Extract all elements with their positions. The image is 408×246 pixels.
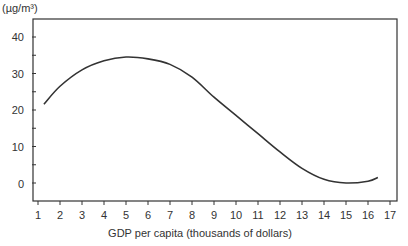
data-line: [44, 57, 378, 183]
chart: 010203040 1234567891011121314151617 (µg/…: [0, 0, 408, 246]
x-tick-label: 3: [79, 209, 85, 221]
x-tick-label: 7: [167, 209, 173, 221]
x-tick-label: 14: [318, 209, 330, 221]
x-tick-label: 17: [384, 209, 396, 221]
y-tick-label: 0: [18, 178, 24, 190]
y-tick-label: 20: [12, 104, 24, 116]
x-tick-label: 12: [274, 209, 286, 221]
y-tick-label: 30: [12, 68, 24, 80]
x-tick-label: 15: [340, 209, 352, 221]
y-axis-label: (µg/m³): [2, 2, 38, 14]
x-tick-label: 11: [252, 209, 263, 221]
y-axis-ticks: 010203040: [12, 31, 36, 190]
x-tick-label: 16: [362, 209, 374, 221]
plot-frame: [33, 19, 397, 201]
x-tick-label: 6: [145, 209, 151, 221]
x-tick-label: 1: [35, 209, 41, 221]
x-tick-label: 4: [101, 209, 107, 221]
x-axis-ticks: 1234567891011121314151617: [35, 201, 396, 221]
x-axis-label: GDP per capita (thousands of dollars): [108, 227, 292, 239]
y-tick-label: 10: [12, 141, 24, 153]
x-tick-label: 8: [189, 209, 195, 221]
x-tick-label: 2: [57, 209, 63, 221]
y-tick-label: 40: [12, 31, 24, 43]
x-tick-label: 13: [296, 209, 308, 221]
x-tick-label: 9: [211, 209, 217, 221]
x-tick-label: 10: [230, 209, 242, 221]
x-tick-label: 5: [123, 209, 129, 221]
